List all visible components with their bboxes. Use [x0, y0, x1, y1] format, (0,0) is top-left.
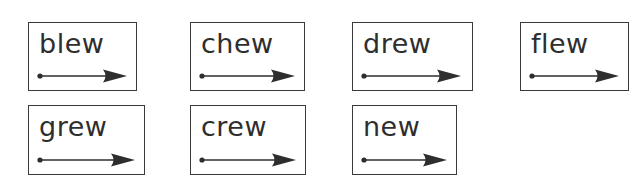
word-label: chew: [201, 29, 274, 59]
right-arrow-icon: [529, 68, 623, 84]
word-card-blew: blew: [28, 22, 137, 91]
word-card-flew: flew: [520, 22, 629, 91]
right-arrow-icon: [37, 152, 139, 168]
word-card-drew: drew: [352, 22, 473, 91]
right-arrow-icon: [199, 68, 299, 84]
word-label: new: [363, 112, 420, 142]
right-arrow-icon: [37, 68, 131, 84]
word-card-chew: chew: [190, 22, 305, 91]
word-label: grew: [39, 112, 107, 142]
word-card-new: new: [352, 105, 457, 175]
right-arrow-icon: [199, 152, 300, 168]
right-arrow-icon: [361, 68, 465, 84]
word-label: drew: [363, 29, 431, 59]
word-label: crew: [201, 112, 267, 142]
word-card-grew: grew: [28, 105, 145, 175]
word-card-crew: crew: [190, 105, 306, 175]
word-label: blew: [39, 29, 104, 59]
word-label: flew: [531, 29, 589, 59]
right-arrow-icon: [361, 152, 451, 168]
